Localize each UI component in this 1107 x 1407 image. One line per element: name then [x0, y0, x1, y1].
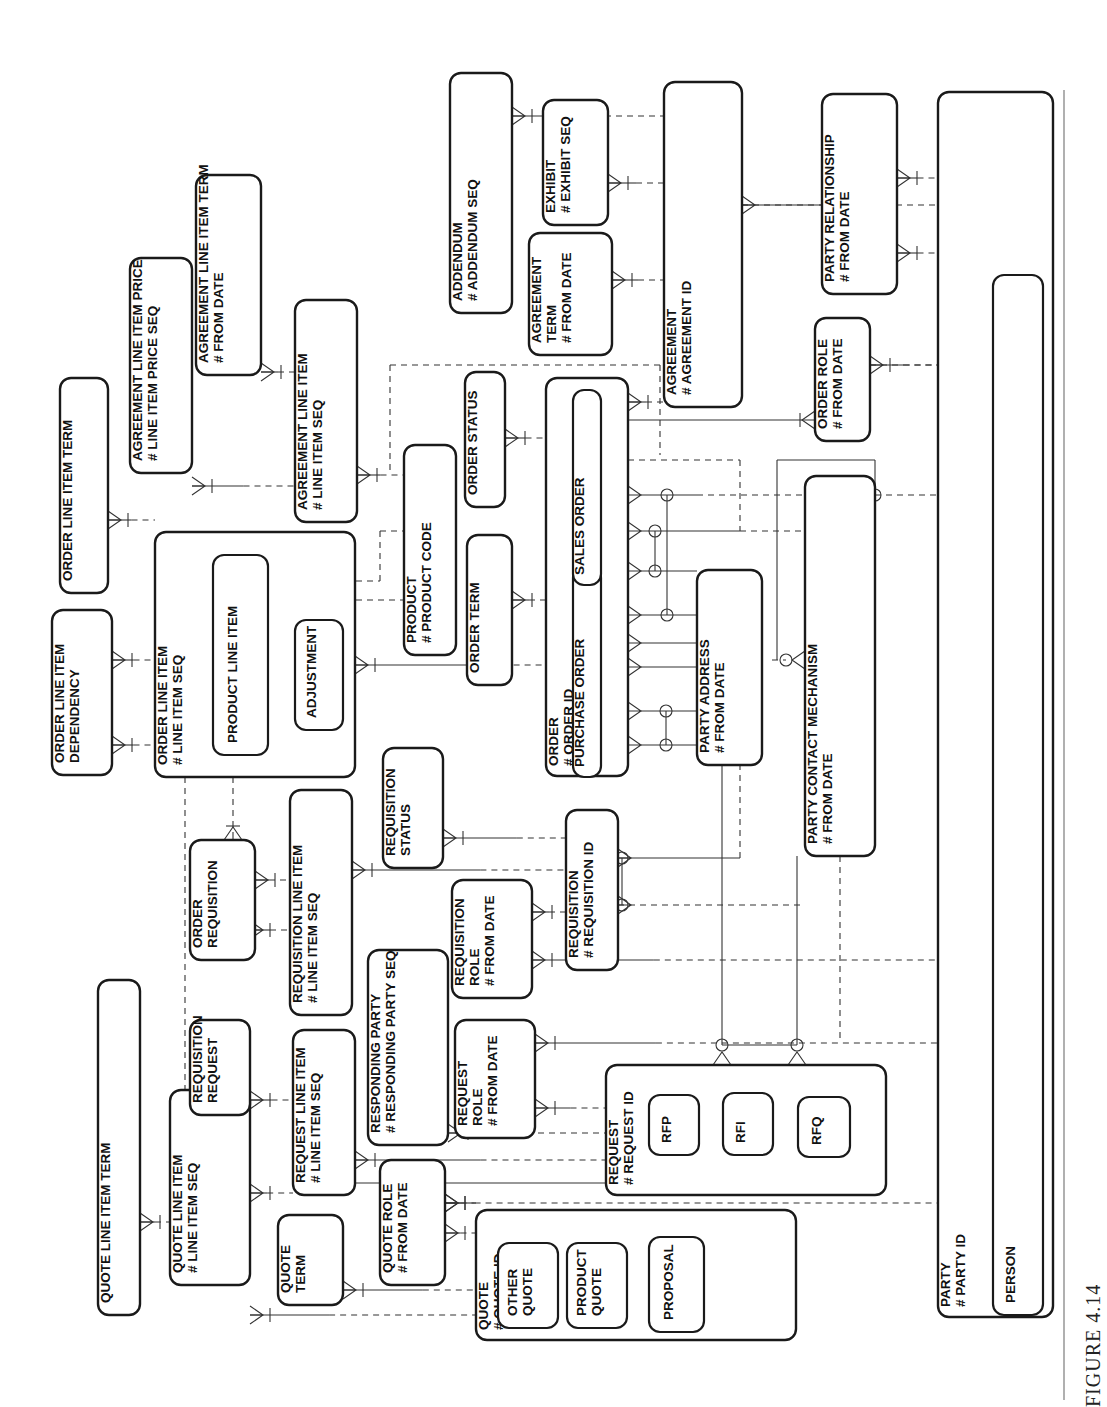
- subtype-rfi: RFI: [723, 1093, 773, 1155]
- entity-quote-role: QUOTE ROLE# FROM DATE: [380, 1160, 445, 1285]
- entity-attribute: # FROM DATE: [485, 1036, 500, 1127]
- entity-name: PRODUCT: [404, 575, 419, 643]
- crowfoot-many-icon: [628, 634, 641, 652]
- crowfoot-many-icon: [628, 522, 641, 540]
- entity-party-address: PARTY ADDRESS# FROM DATE: [697, 570, 762, 765]
- subtype-adjustment: ADJUSTMENT: [295, 620, 343, 730]
- entity-name: REQUISITION: [190, 1015, 205, 1103]
- entity-agreement-line-item: AGREEMENT LINE ITEM# LINE ITEM SEQ: [295, 300, 357, 522]
- entity-name: ORDER TERM: [467, 582, 482, 673]
- entity-attribute: REQUISITION: [205, 860, 220, 948]
- entity-attribute: # FROM DATE: [837, 192, 852, 283]
- entity-name: OTHER: [505, 1268, 520, 1316]
- entity-attribute: # FROM DATE: [712, 663, 727, 754]
- entity-name: QUOTE: [278, 1245, 293, 1293]
- entity-name: AGREEMENT: [664, 308, 679, 395]
- entity-name: ORDER: [546, 717, 561, 766]
- entity-name: REQUISITION LINE ITEM: [290, 845, 305, 1003]
- entity-agreement-line-item-term: AGREEMENT LINE ITEM TERM# FROM DATE: [196, 164, 261, 375]
- entity-attribute: # PARTY ID: [953, 1234, 968, 1307]
- entity-name: PARTY CONTACT MECHANISM: [805, 644, 820, 844]
- figure-caption: FIGURE 4.14: [1082, 1284, 1104, 1407]
- entity-attribute: # LINE ITEM SEQ: [185, 1163, 200, 1273]
- crowfoot-many-icon: [628, 658, 641, 676]
- entity-name: PROPOSAL: [661, 1244, 676, 1320]
- entity-name: ORDER ROLE: [815, 339, 830, 429]
- entity-order-line-item-dependency: ORDER LINE ITEMDEPENDENCY: [52, 610, 112, 775]
- entity-attribute: DEPENDENCY: [67, 669, 82, 763]
- entity-name: RFI: [733, 1121, 748, 1143]
- subtype-box: [649, 1237, 704, 1332]
- entity-attribute: # FROM DATE: [830, 339, 845, 430]
- entity-name: ORDER STATUS: [465, 391, 480, 496]
- entity-name: PARTY RELATIONSHIP: [822, 134, 837, 282]
- entity-name: RFQ: [809, 1117, 824, 1146]
- entity-attribute: STATUS: [398, 804, 413, 856]
- entity-attribute: QUOTE: [520, 1268, 535, 1316]
- entity-attribute: QUOTE: [589, 1268, 604, 1316]
- entity-order-status: ORDER STATUS: [465, 372, 505, 507]
- entity-agreement-term: AGREEMENTTERM# FROM DATE: [529, 233, 612, 355]
- entity-order-term: ORDER TERM: [467, 535, 512, 685]
- crowfoot-many-icon: [628, 702, 641, 720]
- entity-name: PRODUCT LINE ITEM: [225, 606, 240, 743]
- subtype-box: [213, 555, 268, 755]
- crowfoot-many-icon: [713, 1052, 731, 1065]
- subtype-rfq: RFQ: [798, 1097, 850, 1157]
- entity-name: PRODUCT: [574, 1248, 589, 1316]
- entity-attribute: # LINE ITEM PRICE SEQ: [145, 306, 160, 461]
- entity-attribute: # FROM DATE: [482, 896, 497, 987]
- entity-name: QUOTE LINE ITEM: [170, 1154, 185, 1273]
- entity-name: SALES ORDER: [572, 477, 587, 575]
- entity-attribute: # LINE ITEM SEQ: [310, 400, 325, 510]
- entity-boxes: QUOTE LINE ITEM TERMQUOTE LINE ITEM# LIN…: [52, 73, 1053, 1340]
- entity-requisition-role: REQUISITIONROLE# FROM DATE: [452, 880, 532, 998]
- entity-name: PURCHASE ORDER: [572, 638, 587, 767]
- entity-requisition-line-item: REQUISITION LINE ITEM# LINE ITEM SEQ: [290, 790, 352, 1015]
- entity-agreement-line-item-price: AGREEMENT LINE ITEM PRICE# LINE ITEM PRI…: [130, 258, 192, 473]
- entity-attribute: # RESPONDING PARTY SEQ: [383, 950, 398, 1133]
- entity-party-relationship: PARTY RELATIONSHIP# FROM DATE: [822, 94, 897, 294]
- entity-name: REQUEST LINE ITEM: [293, 1047, 308, 1183]
- entity-attribute: TERM: [544, 305, 559, 343]
- crowfoot-many-icon: [628, 736, 641, 754]
- entity-requisition: REQUISITION# REQUISITION ID: [566, 810, 618, 970]
- entity-name: PERSON: [1003, 1246, 1018, 1303]
- entity-attribute: REQUEST: [205, 1037, 220, 1103]
- entity-name: AGREEMENT: [529, 256, 544, 343]
- entity-attribute: # REQUISITION ID: [581, 841, 596, 958]
- er-diagram: QUOTE LINE ITEM TERMQUOTE LINE ITEM# LIN…: [0, 0, 1107, 1407]
- entity-name: QUOTE ROLE: [380, 1184, 395, 1273]
- entity-attribute: # EXHIBIT SEQ: [558, 116, 573, 213]
- entity-name: AGREEMENT LINE ITEM PRICE: [130, 259, 145, 461]
- entity-name: ORDER LINE ITEM: [52, 644, 67, 763]
- subtype-person: PERSON: [993, 275, 1043, 1315]
- subtype-box: [649, 1095, 699, 1155]
- entity-name: ORDER LINE ITEM TERM: [60, 420, 75, 581]
- entity-party-contact-mechanism: PARTY CONTACT MECHANISM# FROM DATE: [805, 476, 875, 856]
- entity-name: QUOTE LINE ITEM TERM: [98, 1143, 113, 1304]
- entity-name: REQUEST: [455, 1060, 470, 1126]
- entity-order-role: ORDER ROLE# FROM DATE: [815, 318, 870, 441]
- crowfoot-many-icon: [792, 651, 805, 669]
- entity-name: ADJUSTMENT: [304, 625, 319, 718]
- entity-attribute: # ADDENDUM SEQ: [465, 179, 480, 301]
- entity-order-line-item-term: ORDER LINE ITEM TERM: [60, 378, 108, 593]
- entity-name: PARTY: [938, 1262, 953, 1307]
- subtype-box: [295, 620, 343, 730]
- entity-name: AGREEMENT LINE ITEM TERM: [196, 164, 211, 363]
- crowfoot-many-icon: [628, 562, 641, 580]
- entity-name: ORDER LINE ITEM: [155, 646, 170, 765]
- entity-agreement: AGREEMENT# AGREEMENT ID: [664, 82, 742, 407]
- crowfoot-many-icon: [788, 1052, 806, 1065]
- entity-request-role: REQUESTROLE# FROM DATE: [455, 1020, 535, 1138]
- crowfoot-many-icon: [628, 606, 641, 624]
- subtype-box: [723, 1093, 773, 1155]
- entity-attribute: # LINE ITEM SEQ: [305, 893, 320, 1003]
- subtype-purchase-order: PURCHASE ORDER: [572, 567, 602, 777]
- entity-attribute: # FROM DATE: [211, 273, 226, 364]
- subtype-product-quote: PRODUCTQUOTE: [567, 1243, 627, 1328]
- entity-name: REQUEST: [606, 1119, 621, 1185]
- entity-attribute: # LINE ITEM SEQ: [170, 655, 185, 765]
- entity-responding-party: RESPONDING PARTY# RESPONDING PARTY SEQ: [368, 950, 448, 1145]
